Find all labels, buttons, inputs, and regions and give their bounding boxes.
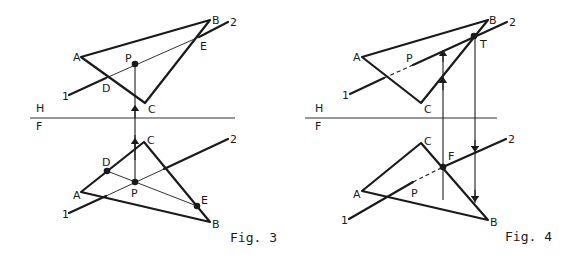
figure-caption: Fig. 3 bbox=[230, 230, 277, 245]
triangle-abc-top bbox=[81, 20, 210, 103]
fold-label-h: H bbox=[315, 102, 323, 115]
label-b: B bbox=[490, 216, 498, 229]
line-12-visible-left bbox=[350, 78, 384, 94]
line-12-visible-right bbox=[164, 139, 228, 169]
label-a: A bbox=[73, 189, 81, 202]
point-p-top bbox=[132, 61, 139, 68]
line-12-hidden bbox=[413, 167, 443, 182]
label-p: P bbox=[131, 187, 138, 200]
fig4-top-view: A B C 1 2 P T bbox=[342, 14, 516, 203]
label-d: D bbox=[102, 82, 110, 95]
label-b: B bbox=[212, 218, 220, 231]
label-e: E bbox=[201, 194, 208, 207]
triangle-abc-top bbox=[362, 20, 488, 103]
label-2: 2 bbox=[230, 16, 237, 29]
label-c: C bbox=[424, 103, 432, 116]
label-1: 1 bbox=[62, 90, 69, 103]
figure-3: H F A B C 1 2 P D E bbox=[30, 14, 277, 245]
label-a: A bbox=[73, 51, 81, 64]
figure-4: H F A B C 1 2 P T bbox=[305, 14, 552, 244]
label-2: 2 bbox=[508, 133, 515, 146]
label-b: B bbox=[489, 14, 497, 27]
label-b: B bbox=[212, 14, 220, 27]
point-p-front bbox=[132, 179, 139, 186]
line-12-inside-plane bbox=[106, 37, 199, 78]
label-1: 1 bbox=[342, 89, 349, 102]
label-c: C bbox=[148, 103, 156, 116]
fig3-front-view: A B C 1 2 P D E bbox=[62, 133, 237, 231]
fold-label-f: F bbox=[315, 120, 321, 133]
label-t: T bbox=[479, 38, 487, 51]
point-e-front bbox=[194, 203, 201, 210]
label-a: A bbox=[353, 188, 361, 201]
triangle-abc-front bbox=[81, 142, 210, 222]
label-c: C bbox=[424, 135, 432, 148]
label-2: 2 bbox=[230, 133, 237, 146]
line-12-visible-left bbox=[69, 78, 106, 95]
point-t-top bbox=[471, 33, 478, 40]
descriptive-geometry-diagram: H F A B C 1 2 P D E bbox=[0, 0, 575, 259]
label-p: P bbox=[411, 187, 418, 200]
label-2: 2 bbox=[509, 16, 516, 29]
label-1: 1 bbox=[62, 208, 69, 221]
label-e: E bbox=[200, 40, 207, 53]
label-p: P bbox=[406, 52, 413, 65]
point-f-front bbox=[440, 164, 447, 171]
fold-label-h: H bbox=[36, 102, 44, 115]
line-12-hidden bbox=[384, 65, 413, 78]
label-1: 1 bbox=[341, 214, 348, 227]
fig4-front-view: A B C 1 2 P F bbox=[341, 133, 515, 229]
figure-caption: Fig. 4 bbox=[505, 229, 552, 244]
label-d: D bbox=[102, 156, 110, 169]
label-a: A bbox=[353, 51, 361, 64]
label-p: P bbox=[125, 52, 132, 65]
fold-label-f: F bbox=[36, 120, 42, 133]
label-c: C bbox=[147, 134, 155, 147]
label-f: F bbox=[448, 150, 454, 163]
